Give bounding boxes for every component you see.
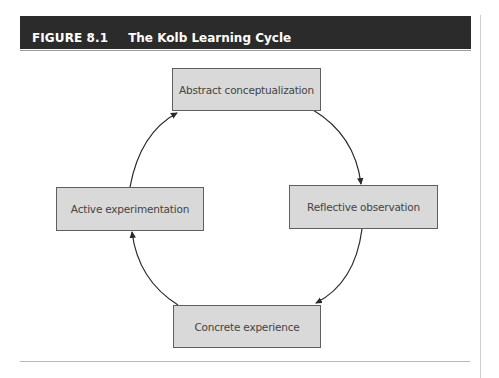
node-active-experimentation: Active experimentation <box>56 187 204 231</box>
figure-title: The Kolb Learning Cycle <box>128 31 291 45</box>
node-reflective-observation: Reflective observation <box>289 185 438 229</box>
arrow-active-to-abstract <box>130 113 177 187</box>
bottom-rule <box>20 361 470 362</box>
node-abstract-conceptualization: Abstract conceptualization <box>172 68 321 111</box>
header-rule <box>20 50 471 51</box>
figure-label: FIGURE 8.1 <box>32 31 108 45</box>
arrow-abstract-to-reflective <box>313 110 361 184</box>
node-label: Active experimentation <box>71 203 189 215</box>
right-margin-rule <box>480 15 481 378</box>
node-label: Reflective observation <box>307 201 420 213</box>
node-label: Abstract conceptualization <box>179 84 314 96</box>
arrow-reflective-to-concrete <box>316 229 362 303</box>
figure-header: FIGURE 8.1 The Kolb Learning Cycle <box>20 16 471 49</box>
node-label: Concrete experience <box>194 321 299 333</box>
arrow-concrete-to-active <box>132 232 178 305</box>
node-concrete-experience: Concrete experience <box>173 305 321 348</box>
